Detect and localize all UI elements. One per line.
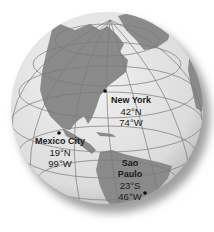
label-mexico-city: Mexico City 19°N 99°W (30, 136, 90, 169)
city-lat: 23°S (110, 180, 150, 191)
city-name: Sao (110, 158, 150, 169)
city-dot-new-york (103, 89, 107, 93)
city-name: Mexico City (30, 136, 90, 147)
city-lon: 99°W (30, 158, 90, 169)
city-dot-mexico-city (57, 131, 61, 135)
city-name: New York (103, 95, 159, 106)
label-new-york: New York 42°N 74°W (103, 95, 159, 128)
city-lat: 42°N (103, 106, 159, 117)
city-lon: 46°W (110, 191, 150, 202)
label-sao-paulo: Sao Paulo 23°S 46°W (110, 158, 150, 202)
city-lat: 19°N (30, 147, 90, 158)
city-name-2: Paulo (110, 169, 150, 180)
city-lon: 74°W (103, 117, 159, 128)
